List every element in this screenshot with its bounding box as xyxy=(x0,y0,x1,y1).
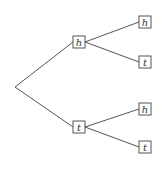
node-label: h xyxy=(142,17,148,28)
tree-node-heads: h xyxy=(139,103,151,115)
tree-node-tails: t xyxy=(139,56,151,68)
tree-node-tails: t xyxy=(73,121,85,133)
tree-edge xyxy=(85,42,139,62)
probability-tree-diagram: hththt xyxy=(0,0,163,169)
tree-node-tails: t xyxy=(139,141,151,153)
node-label: h xyxy=(142,104,148,115)
tree-edge xyxy=(15,87,73,127)
tree-node-heads: h xyxy=(73,36,85,48)
tree-edge xyxy=(85,127,139,147)
tree-edge xyxy=(15,42,73,87)
tree-edge xyxy=(85,109,139,127)
tree-edge xyxy=(85,22,139,42)
tree-nodes: hththt xyxy=(73,16,151,153)
tree-node-heads: h xyxy=(139,16,151,28)
node-label: h xyxy=(76,37,82,48)
